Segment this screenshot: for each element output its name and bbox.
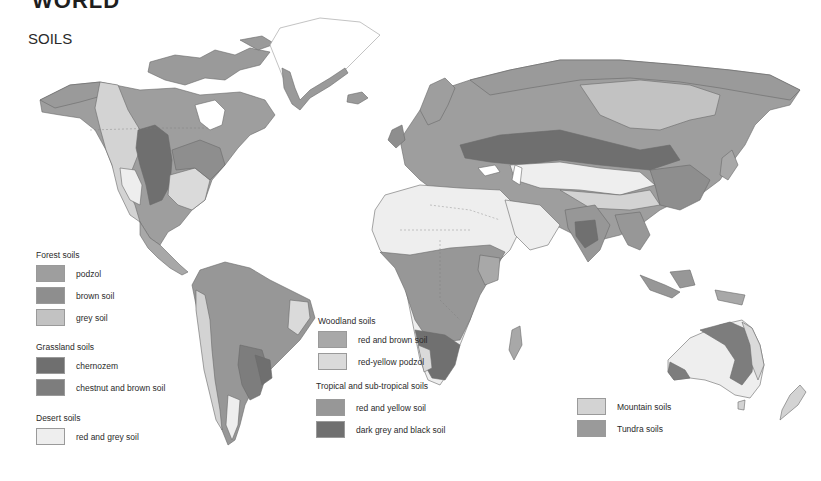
- legend-item-red-yellow-podzol: red-yellow podzol: [318, 353, 427, 370]
- arctic-archipelago: [148, 48, 270, 85]
- legend-heading-tropical: Tropical and sub-tropical soils: [316, 381, 445, 391]
- swatch-red-yellow-podzol: [318, 353, 347, 370]
- legend-item-red-yellow-soil: red and yellow soil: [316, 399, 445, 416]
- legend-label: red-yellow podzol: [358, 357, 424, 367]
- legend-label: dark grey and black soil: [356, 425, 445, 435]
- legend-item-chernozem: chernozem: [36, 357, 165, 374]
- iceland: [347, 92, 368, 104]
- legend-label: brown soil: [76, 291, 114, 301]
- legend-item-tundra-soils: Tundra soils: [577, 420, 671, 437]
- legend-item-chestnut-brown: chestnut and brown soil: [36, 379, 165, 396]
- legend-label: chestnut and brown soil: [76, 383, 165, 393]
- swatch-red-grey-soil: [36, 428, 65, 445]
- legend-heading-desert: Desert soils: [36, 413, 139, 423]
- legend-grassland-soils: Grassland soils chernozem chestnut and b…: [36, 342, 165, 401]
- madagascar: [509, 326, 522, 360]
- legend-label: grey soil: [76, 313, 108, 323]
- legend-label: Mountain soils: [617, 402, 671, 412]
- legend-label: red and yellow soil: [356, 403, 426, 413]
- swatch-tundra-soils: [577, 420, 606, 437]
- swatch-dark-grey-black-soil: [316, 421, 345, 438]
- swatch-red-yellow-soil: [316, 399, 345, 416]
- legend-label: red and grey soil: [76, 432, 139, 442]
- legend-item-grey-soil: grey soil: [36, 309, 114, 326]
- new-zealand: [780, 385, 806, 420]
- legend-item-red-grey-soil: red and grey soil: [36, 428, 139, 445]
- legend-forest-soils: Forest soils podzol brown soil grey soil: [36, 250, 114, 331]
- legend-heading-grassland: Grassland soils: [36, 342, 165, 352]
- swatch-red-brown-soil: [318, 331, 347, 348]
- legend-item-podzol: podzol: [36, 265, 114, 282]
- legend-other-soils: Mountain soils Tundra soils: [577, 398, 671, 442]
- swatch-brown-soil: [36, 287, 65, 304]
- legend-label: chernozem: [76, 361, 118, 371]
- legend-item-dark-grey-black-soil: dark grey and black soil: [316, 421, 445, 438]
- legend-desert-soils: Desert soils red and grey soil: [36, 413, 139, 450]
- legend-tropical-soils: Tropical and sub-tropical soils red and …: [316, 381, 445, 443]
- swatch-mountain-soils: [577, 398, 606, 415]
- swatch-chernozem: [36, 357, 65, 374]
- swatch-podzol: [36, 265, 65, 282]
- legend-item-mountain-soils: Mountain soils: [577, 398, 671, 415]
- legend-heading-woodland: Woodland soils: [318, 316, 427, 326]
- legend-label: podzol: [76, 269, 101, 279]
- legend-woodland-soils: Woodland soils red and brown soil red-ye…: [318, 316, 427, 375]
- tasmania: [738, 400, 745, 410]
- legend-label: Tundra soils: [617, 424, 663, 434]
- legend-item-red-brown-soil: red and brown soil: [318, 331, 427, 348]
- legend-heading-forest: Forest soils: [36, 250, 114, 260]
- legend-label: red and brown soil: [358, 335, 427, 345]
- swatch-grey-soil: [36, 309, 65, 326]
- legend-item-brown-soil: brown soil: [36, 287, 114, 304]
- swatch-chestnut-brown: [36, 379, 65, 396]
